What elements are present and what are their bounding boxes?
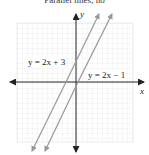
line1-label: y = 2x + 3: [27, 57, 66, 67]
line2-label: y = 2x − 1: [87, 70, 126, 80]
x-axis-label: x: [140, 86, 144, 96]
y-axis-label: y: [80, 9, 84, 19]
coordinate-plane: [0, 0, 149, 155]
